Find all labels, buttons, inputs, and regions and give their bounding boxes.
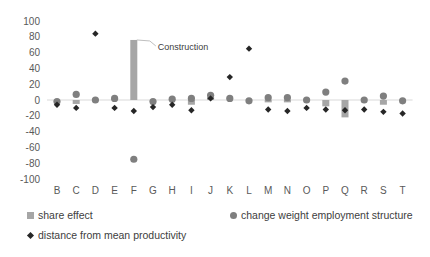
distance-point [188,107,194,113]
y-axis: 100806040200-20-40-60-80-100 [20,16,40,185]
change-weight-point [303,96,310,103]
x-tick-label: R [361,185,368,196]
distance-series [54,30,406,116]
y-tick-label: -60 [26,142,41,153]
y-tick-label: 40 [29,63,41,74]
legend-item-share-effect: share effect [27,209,93,221]
change-weight-series [53,77,406,162]
y-tick-label: 60 [29,47,41,58]
annotations: Construction [137,40,209,52]
change-weight-point [265,94,272,101]
x-tick-label: H [169,185,176,196]
share-effect-bar [130,40,137,100]
y-tick-label: -100 [20,174,40,185]
y-tick-label: -40 [26,126,41,137]
x-axis: BCDEFGHIJKLMNOPQRST [54,185,406,196]
x-tick-label: K [226,185,233,196]
distance-point [131,108,137,114]
distance-point [303,105,309,111]
change-weight-point [111,95,118,102]
x-tick-label: O [303,185,311,196]
x-tick-label: J [208,185,213,196]
square-marker-icon [27,212,34,219]
distance-point [265,106,271,112]
distance-point [246,45,252,51]
x-tick-label: C [73,185,80,196]
legend-item-distance: distance from mean productivity [27,229,186,241]
distance-point [380,109,386,115]
share-effect-bar [322,100,329,106]
change-weight-point [361,96,368,103]
x-tick-label: S [380,185,387,196]
y-tick-label: -80 [26,158,41,169]
x-tick-label: T [400,185,406,196]
share-effect-bar [73,100,80,104]
x-tick-label: Q [341,185,349,196]
diamond-marker-icon [27,231,34,238]
change-weight-point [188,95,195,102]
distance-point [150,104,156,110]
distance-point [111,105,117,111]
share-effect-bar [380,100,387,105]
change-weight-point [341,77,348,84]
distance-point [73,105,79,111]
x-tick-label: G [149,185,157,196]
x-tick-label: F [131,185,137,196]
change-weight-point [399,97,406,104]
change-weight-point [380,92,387,99]
x-tick-label: N [284,185,291,196]
distance-point [361,106,367,112]
y-tick-label: 20 [29,79,41,90]
distance-point [323,106,329,112]
y-tick-label: 0 [34,95,40,106]
chart-plot: 100806040200-20-40-60-80-100 Constructio… [0,0,430,200]
change-weight-point [245,97,252,104]
y-tick-label: 80 [29,31,41,42]
x-tick-label: D [92,185,99,196]
x-tick-label: E [111,185,118,196]
legend-label: share effect [38,209,93,221]
x-tick-label: M [264,185,272,196]
distance-point [227,74,233,80]
legend-label: change weight employment structure [241,209,413,221]
distance-point [92,30,98,36]
legend-label: distance from mean productivity [38,229,186,241]
distance-point [284,108,290,114]
distance-point [169,102,175,108]
change-weight-point [92,96,99,103]
x-tick-label: L [246,185,252,196]
y-tick-label: -20 [26,110,41,121]
change-weight-point [130,156,137,163]
change-weight-point [284,94,291,101]
change-weight-point [322,89,329,96]
legend-item-change-weight: change weight employment structure [230,209,413,221]
y-tick-label: 100 [23,16,40,27]
distance-point [399,110,405,116]
x-tick-label: B [54,185,61,196]
circle-marker-icon [230,212,237,219]
annotation-label: Construction [158,42,209,52]
x-tick-label: P [322,185,329,196]
change-weight-point [226,95,233,102]
annotation-leader-line [137,40,156,46]
x-tick-label: I [190,185,193,196]
change-weight-point [73,91,80,98]
